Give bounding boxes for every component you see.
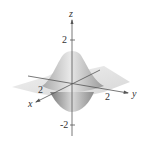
- y-tick-label-2: 2: [105, 92, 110, 102]
- surface-plot-figure: z 2 -2 x 2 y 2: [0, 0, 143, 141]
- surface-plot-graphic: [0, 0, 143, 141]
- y-axis-label: y: [132, 89, 136, 99]
- x-axis-arrow: [35, 99, 41, 103]
- x-tick-label-2: 2: [38, 85, 43, 95]
- x-axis-label: x: [28, 99, 32, 109]
- z-axis-label: z: [69, 9, 73, 19]
- y-axis-arrow: [124, 91, 130, 95]
- z-axis-arrow: [71, 19, 74, 24]
- z-tick-label-neg2: -2: [60, 120, 68, 130]
- z-tick-label-2: 2: [62, 35, 67, 45]
